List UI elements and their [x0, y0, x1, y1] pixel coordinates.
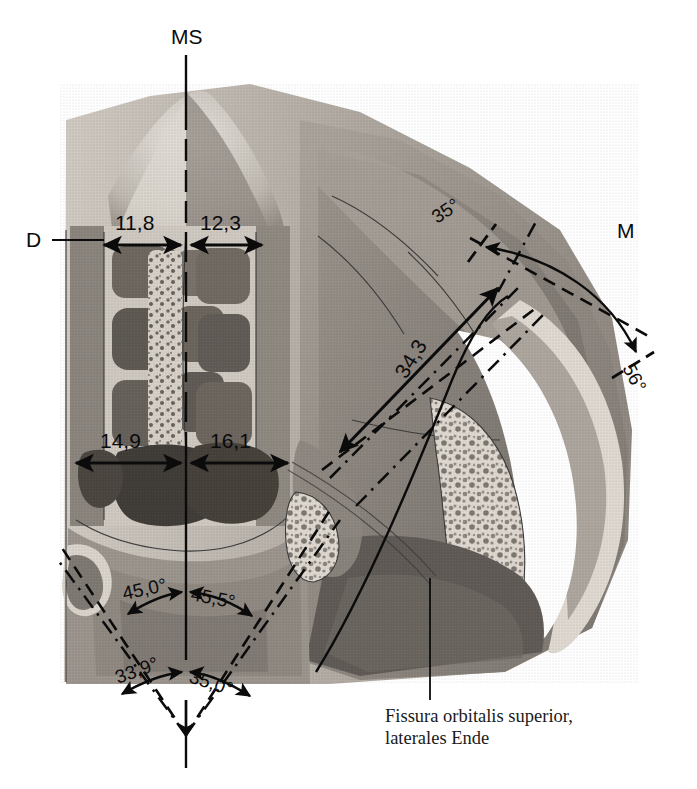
label-14-9: 14,9: [100, 429, 141, 452]
label-16-1: 16,1: [210, 429, 251, 452]
anatomical-figure: MS D 11,8 12,3 14,9 16,1 45,0° 45,5° 33,…: [0, 0, 697, 789]
label-12-3: 12,3: [200, 211, 241, 234]
label-d: D: [26, 228, 41, 251]
caption-line-1: Fissura orbitalis superior,: [385, 706, 573, 726]
label-ms: MS: [171, 25, 203, 48]
label-m: M: [617, 219, 635, 242]
figure-canvas: MS D 11,8 12,3 14,9 16,1 45,0° 45,5° 33,…: [0, 0, 697, 789]
label-11-8: 11,8: [115, 211, 154, 234]
caption-line-2: laterales Ende: [385, 728, 489, 748]
